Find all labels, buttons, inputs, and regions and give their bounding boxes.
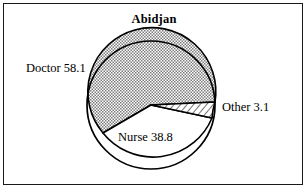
pie-label-doctor: Doctor 58.1: [26, 62, 86, 75]
pie-label-other: Other 3.1: [222, 101, 269, 114]
pie-chart-figure: Abidjan Doctor 58.1 Nurse 38.8 Other 3.1: [0, 0, 308, 190]
pie-chart-graphic: [0, 0, 308, 190]
pie-label-nurse: Nurse 38.8: [118, 131, 173, 144]
